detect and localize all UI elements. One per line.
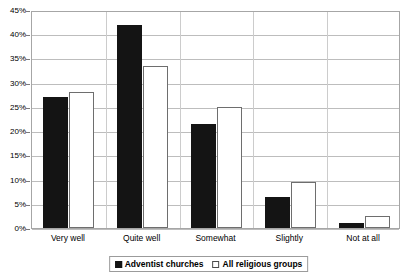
y-axis-tick-label: 20% bbox=[10, 128, 26, 136]
bar-group bbox=[327, 10, 401, 228]
x-axis-tick-label: Quite well bbox=[105, 233, 179, 244]
legend-label-0: Adventist churches bbox=[125, 259, 204, 269]
y-axis-tick-mark bbox=[26, 156, 30, 157]
y-axis-tick-mark bbox=[26, 132, 30, 133]
y-axis-tick-label: 30% bbox=[10, 80, 26, 88]
bar bbox=[69, 92, 94, 228]
filled-square-icon bbox=[115, 261, 122, 268]
bar bbox=[291, 182, 316, 228]
bar bbox=[217, 107, 242, 228]
bar bbox=[339, 223, 364, 228]
x-axis-tick-label: Slightly bbox=[252, 233, 326, 244]
x-axis-tick-label: Somewhat bbox=[179, 233, 253, 244]
bar bbox=[365, 216, 390, 228]
y-axis-tick-label: 40% bbox=[10, 31, 26, 39]
y-axis-tick-label: 15% bbox=[10, 152, 26, 160]
y-axis-tick-mark bbox=[26, 59, 30, 60]
legend-item-1: All religious groups bbox=[213, 259, 303, 269]
y-axis-tick-mark bbox=[26, 35, 30, 36]
y-axis-tick-mark bbox=[26, 11, 30, 12]
x-axis: Very wellQuite wellSomewhatSlightlyNot a… bbox=[31, 233, 400, 249]
y-axis-tick-mark bbox=[26, 229, 30, 230]
legend-label-1: All religious groups bbox=[223, 259, 303, 269]
y-axis-tick-label: 10% bbox=[10, 177, 26, 185]
plot-area bbox=[31, 11, 400, 229]
y-axis-tick-label: 5% bbox=[14, 201, 26, 209]
y-axis-tick-label: 45% bbox=[10, 7, 26, 15]
bar-group bbox=[32, 10, 106, 228]
chart-container: 45%40%35%30%25%20%15%10%5%0% Very wellQu… bbox=[0, 0, 417, 276]
bar bbox=[43, 97, 68, 228]
y-axis-tick-label: 25% bbox=[10, 104, 26, 112]
y-axis-tick-mark bbox=[26, 181, 30, 182]
legend-item-0: Adventist churches bbox=[115, 259, 204, 269]
chart-legend: Adventist churches All religious groups bbox=[109, 256, 309, 272]
bar bbox=[191, 124, 216, 228]
empty-square-icon bbox=[213, 261, 220, 268]
y-axis: 45%40%35%30%25%20%15%10%5%0% bbox=[0, 0, 31, 240]
y-axis-tick-label: 35% bbox=[10, 55, 26, 63]
y-axis-tick-label: 0% bbox=[14, 225, 26, 233]
chart-title bbox=[0, 0, 417, 2]
x-axis-tick-label: Very well bbox=[31, 233, 105, 244]
bar bbox=[117, 25, 142, 228]
x-axis-tick-label: Not at all bbox=[326, 233, 400, 244]
bar-group bbox=[180, 10, 254, 228]
bar-group bbox=[253, 10, 327, 228]
gridline bbox=[32, 229, 399, 230]
bar-group bbox=[106, 10, 180, 228]
bar bbox=[143, 66, 168, 228]
y-axis-tick-mark bbox=[26, 205, 30, 206]
bar bbox=[265, 197, 290, 228]
y-axis-tick-mark bbox=[26, 84, 30, 85]
y-axis-tick-mark bbox=[26, 108, 30, 109]
